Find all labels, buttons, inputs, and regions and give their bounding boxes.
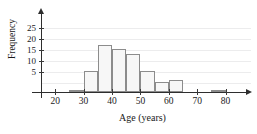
histogram-figure: 25 20 15 10 5 20 30 40 50 60 70 80 Frequ… xyxy=(0,0,257,134)
x-axis-title-text: Age (years) xyxy=(119,112,166,123)
histogram-bar xyxy=(126,54,140,93)
x-tick-label: 70 xyxy=(187,96,207,106)
y-tick-label: 10 xyxy=(18,57,36,66)
x-axis-arrow-icon xyxy=(246,89,252,95)
histogram-bar xyxy=(169,80,183,92)
x-tick xyxy=(140,89,141,95)
x-tick xyxy=(112,89,113,95)
x-tick xyxy=(226,89,227,95)
histogram-bar xyxy=(155,82,169,92)
x-tick xyxy=(169,89,170,95)
y-tick-label: 25 xyxy=(18,24,36,33)
x-tick-label: 40 xyxy=(102,96,122,106)
histogram-bar xyxy=(140,71,154,92)
gridline xyxy=(41,50,251,51)
x-tick-label: 80 xyxy=(216,96,236,106)
y-axis-arrow-icon xyxy=(38,8,44,14)
x-tick xyxy=(197,89,198,95)
x-tick-label: 60 xyxy=(159,96,179,106)
histogram-bar xyxy=(98,45,112,92)
y-tick-label: 15 xyxy=(18,46,36,55)
x-tick-label: 20 xyxy=(45,96,65,106)
x-tick-label: 50 xyxy=(130,96,150,106)
y-tick xyxy=(39,50,44,51)
y-tick xyxy=(39,72,44,73)
gridline xyxy=(41,28,251,29)
x-tick-label: 30 xyxy=(74,96,94,106)
x-tick xyxy=(55,89,56,95)
y-tick-label: 5 xyxy=(18,68,36,77)
y-tick xyxy=(39,39,44,40)
y-tick-label: 20 xyxy=(18,35,36,44)
y-axis-title: Frequency xyxy=(7,1,17,77)
y-axis-line xyxy=(41,14,42,98)
histogram-bar xyxy=(112,49,126,92)
y-tick xyxy=(39,61,44,62)
y-tick xyxy=(39,28,44,29)
histogram-bar xyxy=(84,71,98,92)
x-axis-line xyxy=(32,92,246,93)
gridline xyxy=(41,61,251,62)
x-axis-title: Age (years) xyxy=(0,112,257,123)
x-tick xyxy=(84,89,85,95)
plot-area: 25 20 15 10 5 20 30 40 50 60 70 80 Frequ… xyxy=(0,0,257,134)
gridline xyxy=(41,39,251,40)
